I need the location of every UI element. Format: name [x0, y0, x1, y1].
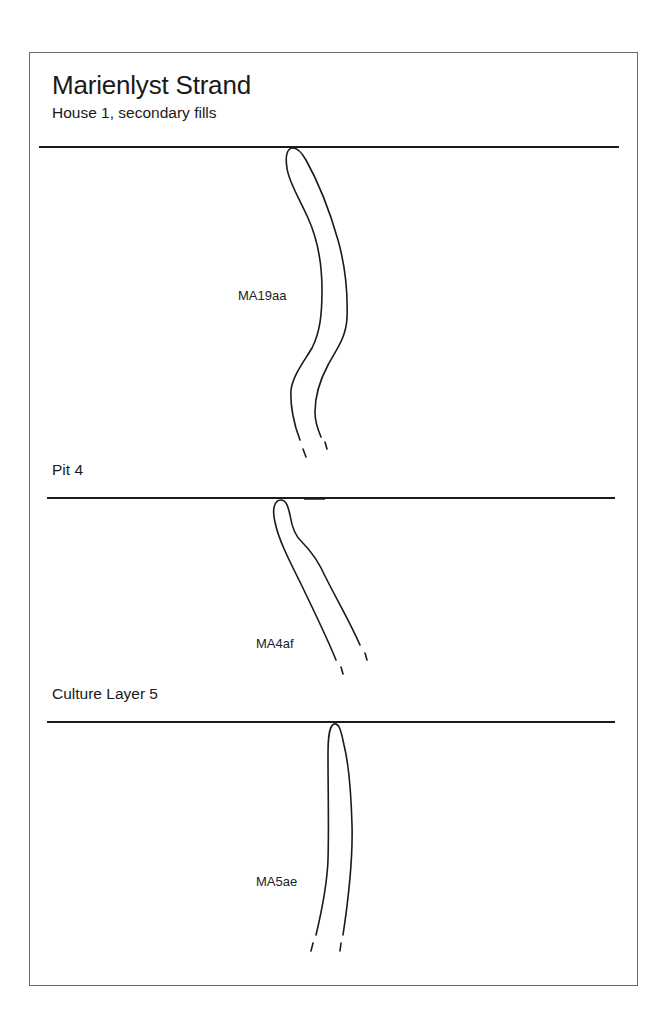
- section-label-culture-layer-5: Culture Layer 5: [52, 685, 158, 703]
- figure-subtitle: House 1, secondary fills: [52, 104, 217, 122]
- sample-label-ma19aa: MA19aa: [238, 288, 286, 303]
- sample-label-ma4af: MA4af: [256, 636, 294, 651]
- figure-title: Marienlyst Strand: [52, 71, 251, 99]
- section-label-pit-4: Pit 4: [52, 461, 83, 479]
- figure-frame: [29, 52, 638, 986]
- sample-label-ma5ae: MA5ae: [256, 874, 297, 889]
